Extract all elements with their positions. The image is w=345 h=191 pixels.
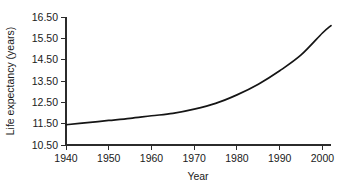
x-tick-label: 1970 [183,152,207,164]
x-tick-label: 1960 [140,152,164,164]
y-tick-label: 13.50 [32,75,58,87]
x-axis-title: Year [187,170,209,182]
y-tick-marks [61,17,66,145]
x-tick-label: 1980 [225,152,249,164]
y-tick-label: 16.50 [32,11,58,23]
data-series-group [66,26,331,125]
life-expectancy-line-chart: 10.5011.5012.5013.5014.5015.5016.50 1940… [0,0,345,191]
y-tick-label: 11.50 [33,117,59,129]
y-tick-label: 14.50 [32,53,58,65]
chart-canvas: 10.5011.5012.5013.5014.5015.5016.50 1940… [0,0,345,191]
y-tick-labels: 10.5011.5012.5013.5014.5015.5016.50 [32,11,58,151]
y-axis-title: Life expectancy (years) [4,27,16,136]
x-axis: 1940195019601970198019902000 [54,145,334,164]
x-tick-label: 1950 [97,152,121,164]
y-axis: 10.5011.5012.5013.5014.5015.5016.50 [32,11,66,151]
y-tick-label: 15.50 [32,32,58,44]
y-tick-label: 10.50 [32,139,58,151]
x-tick-labels: 1940195019601970198019902000 [54,152,334,164]
x-tick-label: 1940 [54,152,78,164]
x-tick-marks [66,145,322,150]
series-line [66,26,331,125]
x-tick-label: 1990 [268,152,292,164]
x-tick-label: 2000 [311,152,335,164]
y-tick-label: 12.50 [32,96,58,108]
